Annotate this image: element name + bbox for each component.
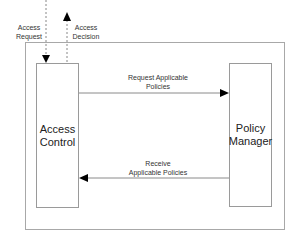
request-policies-label: Request Applicable Policies [110, 73, 206, 91]
receive-policies-label-line1: Receive [110, 159, 206, 168]
access-control-node: Access Control [36, 63, 79, 208]
access-control-label-line2: Control [40, 136, 75, 149]
access-control-label-line1: Access [40, 123, 75, 136]
receive-policies-label-line2: Applicable Policies [110, 168, 206, 177]
request-policies-label-line1: Request Applicable [110, 73, 206, 82]
access-decision-arrowhead-icon [63, 12, 71, 21]
access-decision-label-line2: Decision [70, 32, 102, 41]
access-request-label-line1: Access [14, 23, 44, 32]
policy-manager-label-line2: Manager [229, 135, 272, 148]
access-decision-label: Access Decision [70, 23, 102, 41]
access-decision-label-line1: Access [70, 23, 102, 32]
policy-manager-node: Policy Manager [229, 63, 272, 207]
access-request-label: Access Request [14, 23, 44, 41]
request-policies-label-line2: Policies [110, 82, 206, 91]
receive-policies-label: Receive Applicable Policies [110, 159, 206, 177]
policy-manager-label-line1: Policy [229, 122, 272, 135]
access-request-label-line2: Request [14, 32, 44, 41]
